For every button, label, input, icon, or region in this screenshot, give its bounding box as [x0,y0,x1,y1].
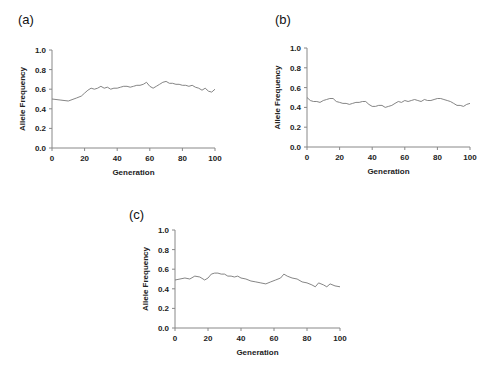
x-tick-label: 80 [178,154,187,163]
x-axis-title: Generation [112,168,154,177]
x-axis-title: Generation [367,167,409,176]
chart-b: 0.00.20.40.60.81.0020406080100Generation… [245,0,491,185]
y-tick-label: 0.6 [290,84,302,93]
y-tick-label: 0.0 [290,143,302,152]
y-tick-label: 1.0 [290,44,302,53]
panel-a: (a) 0.00.20.40.60.81.0020406080100Genera… [0,0,245,185]
x-tick-label: 0 [50,154,55,163]
y-tick-label: 0.4 [35,105,47,114]
y-tick-label: 0.6 [158,265,170,274]
y-tick-label: 0.2 [35,124,47,133]
x-tick-label: 100 [333,334,347,343]
x-tick-label: 80 [303,334,312,343]
y-tick-label: 0.8 [290,64,302,73]
x-tick-label: 60 [145,154,154,163]
x-tick-label: 60 [400,153,409,162]
y-tick-label: 0.2 [158,304,170,313]
y-tick-label: 0.8 [158,246,170,255]
y-tick-label: 0.0 [35,144,47,153]
y-tick-label: 0.8 [35,66,47,75]
x-tick-label: 0 [173,334,178,343]
y-tick-label: 0.0 [158,324,170,333]
panel-c: (c) 0.00.20.40.60.81.0020406080100Genera… [110,200,360,370]
x-tick-label: 40 [113,154,122,163]
allele-frequency-line [175,273,340,287]
x-tick-label: 100 [208,154,222,163]
x-tick-label: 20 [204,334,213,343]
chart-a: 0.00.20.40.60.81.0020406080100Generation… [0,0,245,185]
x-tick-label: 20 [335,153,344,162]
y-axis-title: Allele Frequency [18,66,27,131]
panel-b: (b) 0.00.20.40.60.81.0020406080100Genera… [245,0,491,185]
x-tick-label: 100 [463,153,477,162]
y-axis-title: Allele Frequency [141,246,150,311]
chart-c: 0.00.20.40.60.81.0020406080100Generation… [110,200,360,370]
y-tick-label: 0.6 [35,85,47,94]
x-tick-label: 60 [270,334,279,343]
x-tick-label: 40 [368,153,377,162]
panel-c-label: (c) [129,207,144,222]
x-axis-title: Generation [236,348,278,357]
y-tick-label: 0.4 [158,285,170,294]
y-tick-label: 0.4 [290,103,302,112]
y-tick-label: 1.0 [35,46,47,55]
y-tick-label: 1.0 [158,226,170,235]
x-tick-label: 80 [433,153,442,162]
allele-frequency-line [307,98,470,108]
x-tick-label: 40 [237,334,246,343]
panel-b-label: (b) [275,12,291,27]
panel-a-label: (a) [18,12,34,27]
x-tick-label: 0 [305,153,310,162]
x-tick-label: 20 [80,154,89,163]
allele-frequency-line [52,81,215,101]
y-axis-title: Allele Frequency [273,65,282,130]
y-tick-label: 0.2 [290,123,302,132]
